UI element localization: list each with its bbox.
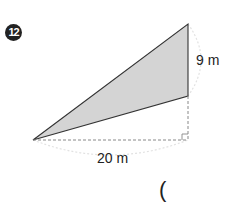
shaded-triangle <box>33 24 188 140</box>
right-angle-marker <box>182 134 188 140</box>
answer-parenthesis: ( <box>159 177 166 203</box>
base-label: 20 m <box>97 150 128 166</box>
triangle-figure <box>0 0 244 218</box>
problem-number-badge: 12 <box>5 24 22 41</box>
height-label: 9 m <box>196 52 219 68</box>
